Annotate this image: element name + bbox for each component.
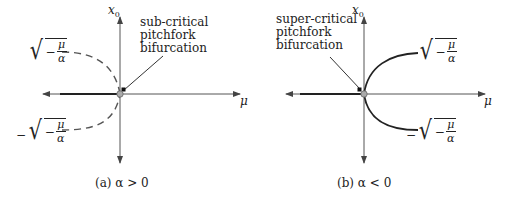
annotation-pointer-a bbox=[124, 56, 163, 90]
annotation-b: super-critical pitchfork bifurcation bbox=[276, 13, 357, 52]
annotation-a: sub-critical pitchfork bifurcation bbox=[140, 16, 208, 55]
bifurcation-point-marker-b bbox=[358, 88, 362, 92]
bifurcation-point-marker-a bbox=[122, 88, 126, 92]
origin-marker-a bbox=[117, 91, 123, 97]
unstable-upper-branch-a bbox=[62, 52, 120, 94]
x0-axis-label-a: x0 bbox=[108, 3, 120, 19]
stable-upper-branch-b bbox=[364, 53, 418, 94]
mu-axis-label-a: μ bbox=[240, 94, 248, 108]
bifurcation-diagrams bbox=[0, 0, 508, 201]
upper-branch-label-a: √−μα bbox=[28, 36, 67, 64]
origin-marker-b bbox=[361, 91, 367, 97]
lower-branch-label-a: −√−μα bbox=[16, 116, 66, 144]
mu-axis-label-b: μ bbox=[484, 94, 492, 108]
lower-branch-label-b: −√−μα bbox=[406, 116, 456, 144]
annotation-pointer-b bbox=[330, 57, 360, 89]
upper-branch-label-b: √−μα bbox=[418, 36, 457, 64]
caption-b: (b) α < 0 bbox=[337, 176, 391, 190]
caption-a: (a) α > 0 bbox=[95, 176, 149, 190]
unstable-lower-branch-a bbox=[62, 94, 120, 130]
